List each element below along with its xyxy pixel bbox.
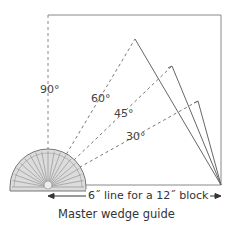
angle-label-90: 90° [40,84,60,95]
angle-label-60: 60° [91,93,111,104]
protractor-icon [10,149,86,191]
angle-label-30: 30° [126,131,146,142]
dimension-label: 6˝ line for a 12˝ block [86,189,210,202]
wedge-line-30 [198,101,221,185]
diagram-caption: Master wedge guide [58,207,175,221]
angle-label-45: 45° [114,108,134,119]
wedge-line-45 [172,66,221,185]
tick-30 [194,101,198,103]
wedge-line-60 [135,39,221,185]
